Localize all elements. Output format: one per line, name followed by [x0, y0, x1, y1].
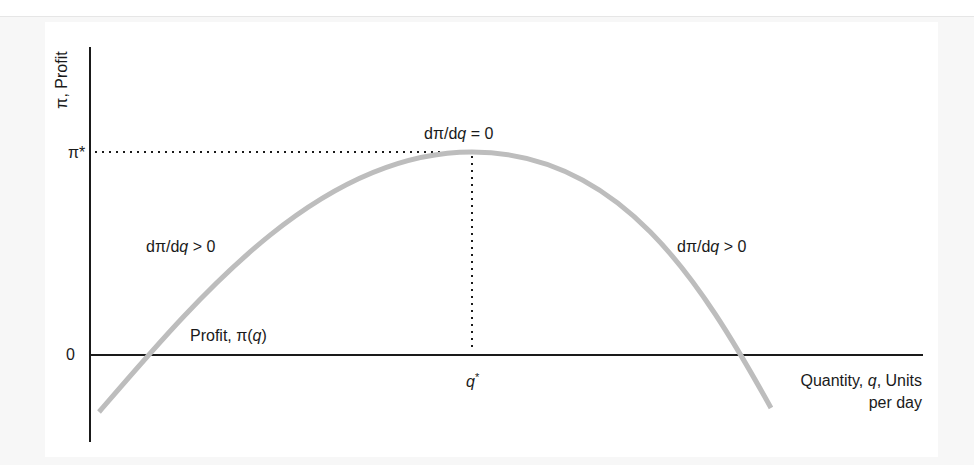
annotation-left-b: > 0 [188, 238, 215, 255]
x-axis-title-line2: per day [800, 392, 922, 414]
annotation-right-b: > 0 [719, 238, 746, 255]
annotation-right-a: dπ/d [677, 238, 710, 255]
x-axis-title-part: Quantity, [800, 372, 867, 389]
x-axis-title-part: , Units [877, 372, 922, 389]
annotation-left-a: dπ/d [146, 238, 179, 255]
profit-curve [99, 152, 771, 412]
x-axis-title: Quantity, q, Units per day [800, 370, 922, 414]
curve-label-b: ) [262, 327, 267, 344]
curve-label: Profit, π(q) [190, 328, 267, 344]
annotation-left-q: q [179, 238, 188, 255]
annotation-peak: dπ/dq = 0 [424, 126, 493, 142]
y-tick-zero: 0 [66, 347, 75, 363]
x-tick-q-var: q [466, 373, 475, 390]
x-axis-title-line1: Quantity, q, Units [800, 370, 922, 392]
y-axis-title: π, Profit [53, 51, 71, 108]
x-tick-q-sup: * [475, 371, 479, 383]
curve-label-q: q [253, 327, 262, 344]
annotation-right: dπ/dq > 0 [677, 239, 746, 255]
annotation-peak-a: dπ/d [424, 125, 457, 142]
annotation-peak-b: = 0 [466, 125, 493, 142]
curve-label-a: Profit, π( [190, 327, 253, 344]
y-tick-pi-star: π* [68, 145, 85, 161]
annotation-peak-q: q [457, 125, 466, 142]
x-axis-title-q: q [868, 372, 877, 389]
annotation-right-q: q [710, 238, 719, 255]
x-tick-q-star: q* [466, 372, 479, 390]
annotation-left: dπ/dq > 0 [146, 239, 215, 255]
